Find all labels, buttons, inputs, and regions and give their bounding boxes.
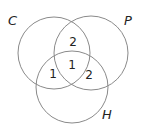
region-c-p-h: 1 <box>68 58 76 72</box>
venn-diagram: C P H 2 1 1 2 <box>0 0 142 127</box>
label-p: P <box>124 13 132 28</box>
label-c: C <box>8 13 18 28</box>
region-p-h: 2 <box>85 68 93 82</box>
label-h: H <box>102 107 112 122</box>
region-c-p: 2 <box>69 35 77 49</box>
region-c-h: 1 <box>49 67 57 81</box>
